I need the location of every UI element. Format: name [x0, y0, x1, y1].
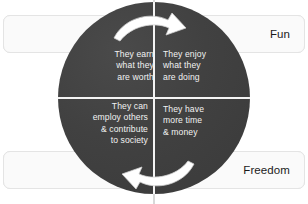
- quadrant-line: more time: [163, 115, 249, 126]
- quadrant-text-bottom-right: They have more time & money: [157, 104, 249, 138]
- quadrant-text-top-right: They enjoy what they are doing: [157, 49, 249, 83]
- quadrant-line: They earn: [68, 49, 154, 60]
- quadrant-line: & contribute: [62, 124, 148, 135]
- quadrant-line: what they: [163, 60, 249, 71]
- divider-horizontal: [58, 97, 250, 99]
- quadrant-line: employ others: [62, 112, 148, 123]
- quadrant-circle: They earn what they are worth They enjoy…: [58, 2, 250, 194]
- quadrant-line: They can: [62, 101, 148, 112]
- circle-fill: They earn what they are worth They enjoy…: [58, 2, 250, 194]
- quadrant-line: to society: [62, 135, 148, 146]
- quadrant-line: They have: [163, 104, 249, 115]
- label-freedom: Freedom: [243, 164, 304, 176]
- quadrant-text-top-left: They earn what they are worth: [68, 49, 160, 83]
- quadrant-text-bottom-left: They can employ others & contribute to s…: [62, 101, 154, 147]
- diagram-canvas: Worth Fun Contribute Freedom They earn w…: [0, 0, 308, 204]
- quadrant-line: are worth: [68, 72, 154, 83]
- quadrant-line: are doing: [163, 72, 249, 83]
- quadrant-line: They enjoy: [163, 49, 249, 60]
- quadrant-line: & money: [163, 127, 249, 138]
- quadrant-line: what they: [68, 60, 154, 71]
- label-fun: Fun: [270, 28, 304, 40]
